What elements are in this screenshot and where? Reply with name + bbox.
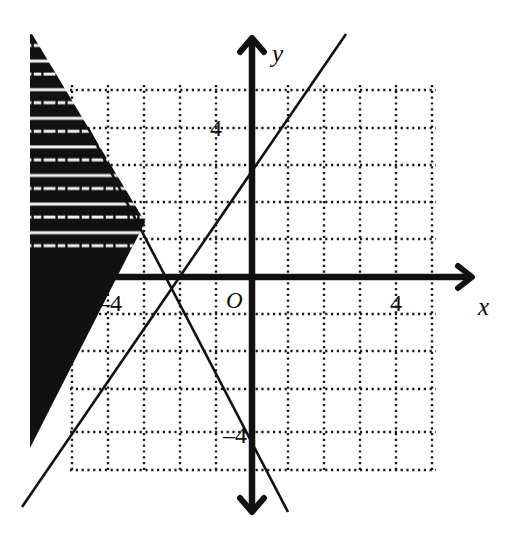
coordinate-plane-svg: y x O 4 –4 4 –4 (0, 0, 514, 555)
y-tick-4: 4 (210, 115, 222, 141)
x-tick-neg4: –4 (97, 290, 122, 316)
axes (36, 38, 472, 512)
y-axis-label: y (269, 40, 284, 67)
origin-label: O (226, 288, 243, 313)
y-tick-neg4: –4 (222, 422, 247, 448)
line-negative-slope (88, 128, 288, 512)
x-tick-4: 4 (390, 290, 402, 316)
graph-figure: y x O 4 –4 4 –4 (0, 0, 514, 555)
x-axis-label: x (477, 293, 489, 320)
